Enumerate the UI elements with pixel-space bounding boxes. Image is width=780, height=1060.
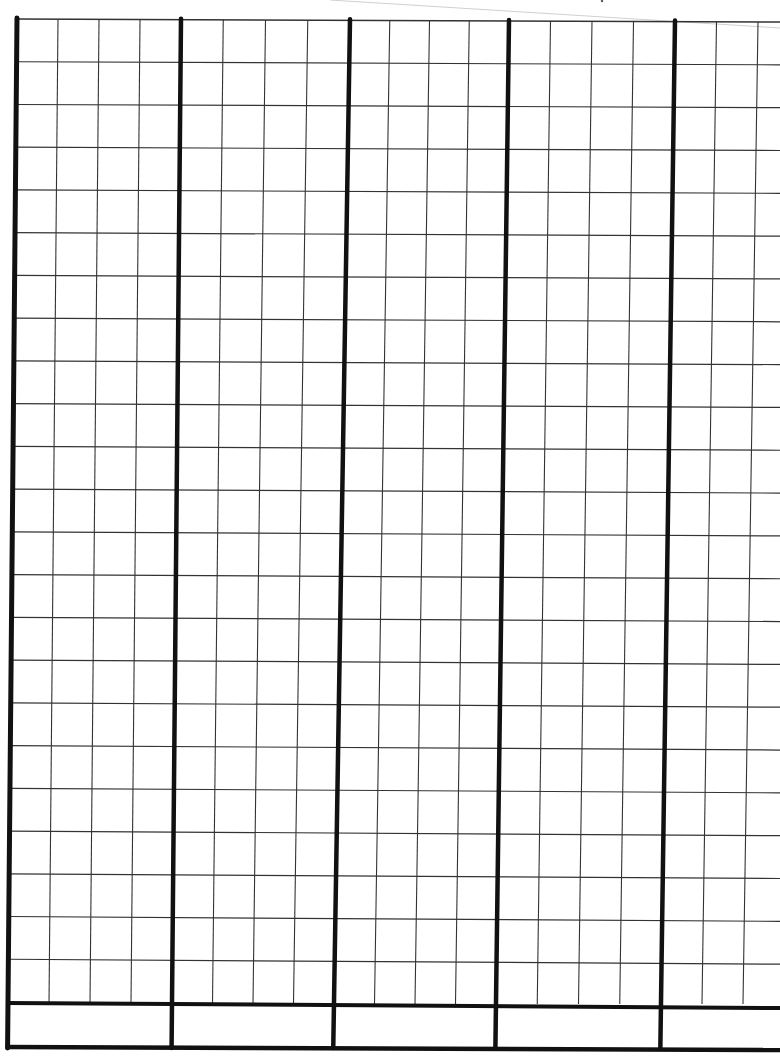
major-vertical-gridlines: [8, 18, 675, 1048]
footer-cell-3: [337, 1007, 493, 1044]
scan-page-edge: [330, 0, 780, 28]
footer-cell-4: [499, 1007, 658, 1044]
grid-drawing: [0, 0, 780, 1060]
footer-cell-5: [664, 1007, 777, 1044]
minor-vertical-gridlines: [49, 19, 758, 1004]
footer-cell-1: [11, 1007, 169, 1044]
footer-cell-2: [175, 1007, 331, 1044]
graph-paper-sheet: [0, 0, 780, 1060]
